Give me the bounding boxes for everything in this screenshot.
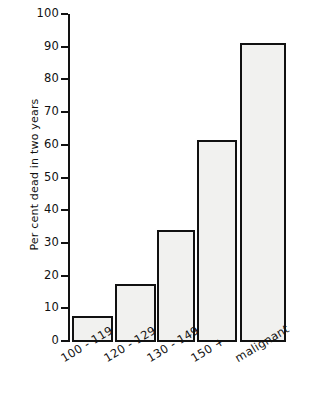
y-axis-tick-label: 0	[15, 335, 59, 347]
y-axis-tick	[61, 177, 68, 179]
y-axis-tick-label: 10	[15, 302, 59, 314]
y-axis-tick	[61, 111, 68, 113]
chart-figure: 0102030405060708090100 100 - 119120 - 12…	[0, 0, 310, 400]
y-axis-tick	[61, 275, 68, 277]
bar-chart-plot-area: 0102030405060708090100 100 - 119120 - 12…	[0, 0, 310, 400]
y-axis-tick	[61, 78, 68, 80]
y-axis-tick-label: 90	[15, 41, 59, 53]
y-axis-tick	[61, 144, 68, 146]
y-axis-title: Per cent dead in two years	[28, 65, 41, 285]
y-axis-tick	[61, 46, 68, 48]
y-axis-line	[68, 14, 70, 342]
bar	[197, 140, 237, 342]
y-axis-tick-label: 100	[15, 8, 59, 20]
y-axis-tick	[61, 242, 68, 244]
y-axis-tick	[61, 307, 68, 309]
y-axis-tick	[61, 13, 68, 15]
bar	[240, 43, 286, 342]
y-axis-tick	[61, 209, 68, 211]
y-axis-tick	[61, 340, 68, 342]
